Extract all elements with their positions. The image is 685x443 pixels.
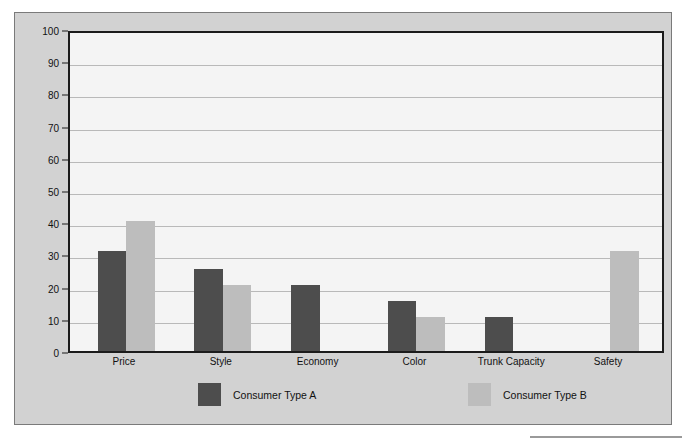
x-axis-tick-label: Price bbox=[113, 356, 136, 367]
bar bbox=[223, 285, 252, 351]
y-axis-tick-label: 70 bbox=[48, 122, 59, 133]
y-axis-tick-label: 0 bbox=[53, 348, 59, 359]
legend-entry[interactable]: Consumer Type B bbox=[468, 383, 587, 406]
plot-area bbox=[68, 31, 664, 353]
bar bbox=[194, 269, 223, 351]
legend-swatch bbox=[468, 383, 491, 406]
bar-group bbox=[485, 33, 542, 351]
bar-group bbox=[291, 33, 348, 351]
x-axis-tick-container: PriceStyleEconomyColorTrunk CapacitySafe… bbox=[68, 356, 664, 374]
bar-group bbox=[582, 33, 639, 351]
bar bbox=[388, 301, 417, 351]
x-axis-tick-label: Color bbox=[402, 356, 426, 367]
x-axis-tick-label: Style bbox=[210, 356, 232, 367]
y-axis-tick-label: 20 bbox=[48, 283, 59, 294]
bar bbox=[485, 317, 514, 351]
chart-legend: Consumer Type AConsumer Type B bbox=[68, 383, 664, 413]
bar bbox=[416, 317, 445, 351]
y-axis-tick-label: 30 bbox=[48, 251, 59, 262]
y-axis-tick-label: 10 bbox=[48, 315, 59, 326]
bar bbox=[291, 285, 320, 351]
bar bbox=[126, 221, 155, 351]
legend-swatch bbox=[198, 383, 221, 406]
legend-label: Consumer Type A bbox=[233, 389, 316, 401]
chart-figure-frame: Importance Points 0102030405060708090100… bbox=[14, 12, 672, 425]
bar-group bbox=[388, 33, 445, 351]
y-axis-tick-label: 100 bbox=[42, 26, 59, 37]
x-axis-tick-label: Trunk Capacity bbox=[478, 356, 545, 367]
x-axis-tick-label: Safety bbox=[594, 356, 622, 367]
y-axis-tick-label: 50 bbox=[48, 187, 59, 198]
y-axis-tick-label: 90 bbox=[48, 58, 59, 69]
page-bottom-rule bbox=[530, 436, 682, 438]
bar-group bbox=[194, 33, 251, 351]
bars-layer bbox=[70, 33, 662, 351]
legend-entry[interactable]: Consumer Type A bbox=[198, 383, 316, 406]
bar bbox=[98, 251, 127, 351]
y-axis-tick-label: 80 bbox=[48, 90, 59, 101]
x-axis-tick-label: Economy bbox=[297, 356, 339, 367]
bar bbox=[610, 251, 639, 351]
y-axis-tick-label: 40 bbox=[48, 219, 59, 230]
y-axis-tick-label: 60 bbox=[48, 154, 59, 165]
legend-label: Consumer Type B bbox=[503, 389, 587, 401]
y-axis-tick-container: 0102030405060708090100 bbox=[15, 31, 68, 353]
bar-group bbox=[98, 33, 155, 351]
